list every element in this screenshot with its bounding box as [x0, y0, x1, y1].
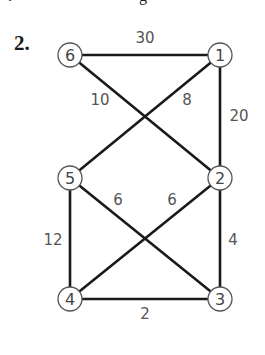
weight-label-4-3: 2 — [140, 305, 150, 323]
weight-label-2-4: 6 — [167, 191, 177, 209]
graph-canvas: 30 10 8 20 6 6 12 4 2 1 2 3 — [0, 0, 265, 355]
node-2: 2 — [208, 166, 232, 190]
node-label: 3 — [215, 290, 225, 309]
node-label: 2 — [215, 169, 225, 188]
weight-label-6-1: 30 — [135, 29, 154, 47]
weight-label-5-4: 12 — [43, 231, 62, 249]
weight-label-2-3: 4 — [228, 231, 238, 249]
weight-label-1-5: 8 — [182, 91, 192, 109]
node-4: 4 — [58, 287, 82, 311]
node-label: 1 — [215, 46, 225, 65]
weight-label-1-2: 20 — [229, 107, 248, 125]
node-3: 3 — [208, 287, 232, 311]
node-label: 6 — [65, 46, 75, 65]
node-1: 1 — [208, 43, 232, 67]
weight-label-5-3: 6 — [113, 191, 123, 209]
weighted-graph-figure: . g 2. 30 10 8 20 6 6 12 4 2 — [0, 0, 265, 355]
nodes: 1 2 3 4 5 6 — [58, 43, 232, 311]
node-label: 4 — [65, 290, 75, 309]
node-5: 5 — [58, 166, 82, 190]
node-label: 5 — [65, 169, 75, 188]
weight-label-6-2: 10 — [90, 91, 109, 109]
node-6: 6 — [58, 43, 82, 67]
